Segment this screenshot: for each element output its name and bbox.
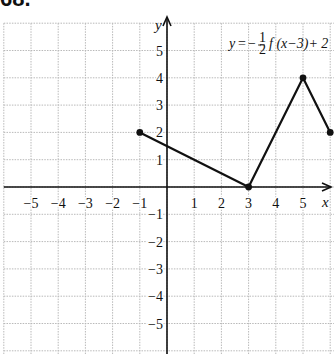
axes: xy (4, 17, 331, 354)
data-point (245, 184, 252, 191)
y-tick-label: 5 (156, 44, 163, 59)
x-tick-label: −3 (78, 196, 93, 211)
eq-minus: − (248, 36, 256, 51)
x-tick-label: −5 (24, 196, 39, 211)
y-tick-label: 3 (156, 98, 163, 113)
data-point (327, 129, 334, 136)
y-tick-label: −5 (148, 317, 163, 332)
y-tick-label: −1 (148, 207, 163, 222)
x-tick-label: −4 (51, 196, 66, 211)
eq-equals: = (238, 36, 246, 51)
eq-lhs: y (227, 36, 236, 51)
grid-lines (4, 23, 334, 354)
y-tick-label: 4 (156, 71, 163, 86)
x-tick-label: −1 (132, 196, 147, 211)
graph: xy −5−4−3−2−11234554321−1−2−3−4−5 y = − … (0, 0, 334, 354)
data-point (300, 74, 307, 81)
y-tick-label: 1 (156, 153, 163, 168)
x-tick-label: 3 (245, 196, 252, 211)
y-tick-label: −3 (148, 262, 163, 277)
x-tick-label: 1 (191, 196, 198, 211)
y-tick-label: −2 (148, 235, 163, 250)
equation-label: y = − 1 2 f (x−3)+ 2 (227, 30, 328, 57)
x-tick-label: 2 (218, 196, 225, 211)
y-tick-label: −4 (148, 289, 163, 304)
x-tick-label: −2 (105, 196, 120, 211)
x-tick-label: 5 (300, 196, 307, 211)
y-axis-label: y (153, 17, 162, 33)
data-point (136, 129, 143, 136)
x-tick-label: 4 (272, 196, 279, 211)
x-axis-label: x (321, 194, 329, 210)
eq-frac-den: 2 (259, 42, 266, 57)
y-tick-label: 2 (156, 125, 163, 140)
eq-rhs: f (x−3)+ 2 (269, 36, 328, 52)
